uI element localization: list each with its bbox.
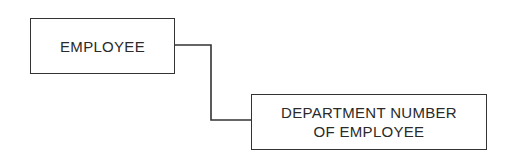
- node-department-number: DEPARTMENT NUMBER OF EMPLOYEE: [251, 94, 487, 150]
- node-employee: EMPLOYEE: [30, 18, 175, 74]
- node-department-label-line2: OF EMPLOYEE: [314, 122, 425, 141]
- node-employee-label: EMPLOYEE: [60, 37, 145, 56]
- node-department-label-line1: DEPARTMENT NUMBER: [281, 103, 457, 122]
